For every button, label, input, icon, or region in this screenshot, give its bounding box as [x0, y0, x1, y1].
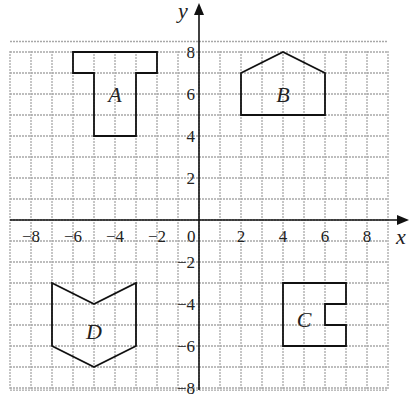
x-tick-label: −6: [64, 227, 82, 246]
y-tick-label: 4: [187, 127, 196, 146]
y-tick-label: 8: [187, 43, 196, 62]
x-tick-label: 2: [237, 227, 246, 246]
coordinate-grid: x y −8−6−4−2024688642−2−4−6−8 ABCD: [0, 0, 409, 400]
y-axis-arrow-icon: [194, 3, 204, 15]
x-axis-label: x: [395, 224, 406, 249]
shape-label-b: B: [276, 82, 289, 107]
shape-label-a: A: [106, 82, 122, 107]
y-tick-label: −2: [177, 253, 195, 272]
x-tick-label: 4: [279, 227, 288, 246]
y-tick-label: −6: [177, 337, 195, 356]
y-tick-label: 6: [187, 85, 196, 104]
x-tick-label: 8: [363, 227, 372, 246]
x-tick-label: 6: [321, 227, 330, 246]
x-tick-label: −2: [148, 227, 166, 246]
x-tick-label: −8: [22, 227, 40, 246]
x-tick-label: 0: [187, 227, 196, 246]
y-tick-label: 2: [187, 169, 196, 188]
x-tick-label: −4: [106, 227, 125, 246]
y-axis-label: y: [176, 0, 188, 23]
shape-c: [283, 283, 346, 346]
shape-label-c: C: [297, 307, 312, 332]
shape-label-d: D: [85, 319, 102, 344]
y-tick-label: −8: [177, 379, 195, 398]
y-tick-label: −4: [177, 295, 196, 314]
